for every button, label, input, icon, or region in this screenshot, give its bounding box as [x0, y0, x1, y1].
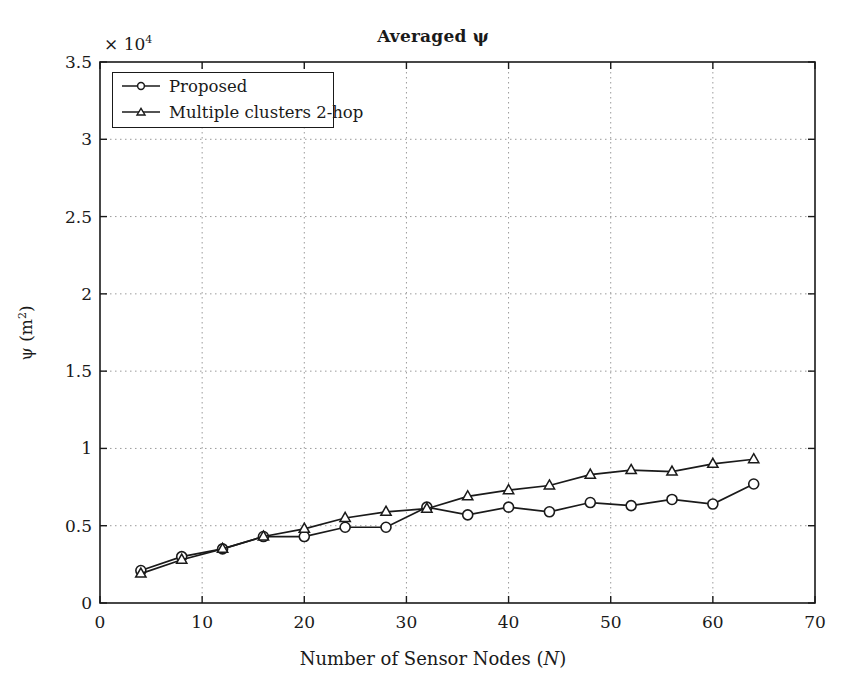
data-point-marker	[667, 494, 677, 504]
data-point-marker	[340, 522, 350, 532]
x-tick-label: 10	[191, 612, 213, 632]
x-tick-label: 60	[702, 612, 724, 632]
data-point-marker	[626, 464, 636, 473]
x-tick-label: 70	[804, 612, 826, 632]
data-point-marker	[463, 510, 473, 520]
y-tick-label: 0	[40, 593, 92, 613]
data-point-marker	[585, 498, 595, 508]
y-tick-label: 3.5	[40, 52, 92, 72]
data-point-marker	[299, 532, 309, 542]
x-axis-label: Number of Sensor Nodes (N)	[0, 648, 866, 669]
axes-frame	[100, 62, 815, 603]
legend-label: Proposed	[161, 77, 247, 96]
y-tick-label: 1.5	[40, 361, 92, 381]
legend-entry-multiple-clusters: Multiple clusters 2-hop	[113, 99, 333, 125]
x-axis-label-variable: N	[544, 648, 560, 669]
x-tick-label: 30	[396, 612, 418, 632]
y-tick-label: 2	[40, 284, 92, 304]
legend-box: Proposed Multiple clusters 2-hop	[112, 72, 334, 128]
y-axis-label: ψ (m2)	[16, 305, 37, 360]
axis-ticks	[100, 62, 815, 603]
data-point-marker	[626, 501, 636, 511]
data-point-marker	[749, 479, 759, 489]
chart-figure: Averaged ψ × 104 00.511.522.533.5 010203…	[0, 0, 866, 691]
legend-label: Multiple clusters 2-hop	[161, 103, 363, 122]
data-point-marker	[504, 502, 514, 512]
data-point-marker	[544, 507, 554, 517]
gridlines	[100, 62, 815, 603]
data-point-marker	[749, 454, 759, 463]
legend-marker-triangle-icon	[121, 105, 161, 119]
legend-entry-proposed: Proposed	[113, 73, 333, 99]
series-line	[141, 459, 754, 573]
x-tick-label: 50	[600, 612, 622, 632]
x-tick-label: 40	[498, 612, 520, 632]
y-tick-label: 0.5	[40, 516, 92, 536]
series-line	[141, 484, 754, 571]
legend-marker-circle-icon	[121, 79, 161, 93]
data-point-marker	[381, 522, 391, 532]
y-tick-label: 2.5	[40, 207, 92, 227]
data-point-marker	[708, 499, 718, 509]
data-series-layer	[136, 454, 759, 577]
y-tick-label: 1	[40, 438, 92, 458]
x-tick-label: 0	[95, 612, 106, 632]
x-tick-label: 20	[293, 612, 315, 632]
y-tick-label: 3	[40, 129, 92, 149]
